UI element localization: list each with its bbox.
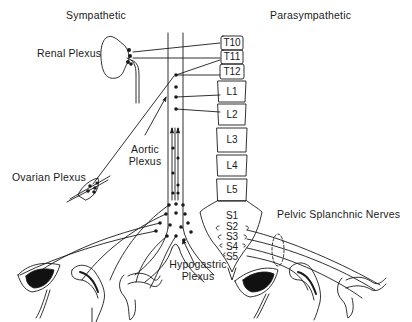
aortic-internal-nerves	[171, 128, 180, 200]
aortic-plexus-label: Aortic Plexus	[127, 143, 163, 167]
vertebra-l1-label: L1	[218, 86, 246, 97]
sympathetic-heading: Sympathetic	[66, 9, 126, 21]
kidney-drawing	[101, 36, 139, 103]
hypogastric-plexus-ganglia	[154, 202, 193, 242]
vertebra-t11-label: T11	[221, 51, 243, 62]
label-pointer-arrows	[145, 97, 195, 265]
vertebra-l2-label: L2	[218, 109, 246, 120]
vertebra-l3-label: L3	[217, 134, 247, 145]
renal-plexus-label: Renal Plexus	[37, 47, 101, 59]
autonomic-pelvic-innervation-diagram: Sympathetic Parasympathetic Renal Plexus…	[0, 0, 412, 322]
hypogastric-plexus-label-line2: Plexus	[162, 270, 234, 282]
vertebra-s5-label: S5	[220, 251, 244, 262]
vertebra-t12-label: T12	[220, 66, 244, 77]
left-uterus-drawing	[71, 265, 104, 322]
vertebra-s1-label: S1	[220, 210, 244, 221]
aortic-plexus-label-line1: Aortic	[127, 143, 163, 155]
sympathetic-connecting-nerves	[133, 43, 220, 112]
parasympathetic-heading: Parasympathetic	[270, 9, 351, 21]
left-rectum-drawing	[120, 273, 163, 320]
renal-plexus-ganglia	[126, 48, 133, 66]
ovarian-plexus-ganglia	[86, 181, 98, 193]
vertebra-l4-label: L4	[217, 160, 247, 171]
aortic-plexus-label-line2: Plexus	[127, 155, 163, 167]
right-bladder-drawing	[235, 268, 278, 318]
ovarian-plexus-label: Ovarian Plexus	[12, 171, 86, 183]
vertebra-t10-label: T10	[221, 37, 243, 48]
vertebra-l5-label: L5	[217, 184, 247, 195]
ovarian-nerve	[67, 76, 174, 202]
pelvic-splanchnic-nerves-label: Pelvic Splanchnic Nerves	[277, 208, 400, 220]
left-bladder-drawing	[18, 263, 60, 318]
